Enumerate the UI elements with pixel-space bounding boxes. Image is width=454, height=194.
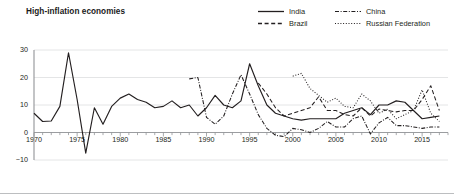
chart-plot-area [0,0,454,194]
series-line-india [34,53,439,153]
chart-figure: High-inflation economies India Brazil Ch… [0,0,454,194]
series-line-brazil [258,83,439,116]
